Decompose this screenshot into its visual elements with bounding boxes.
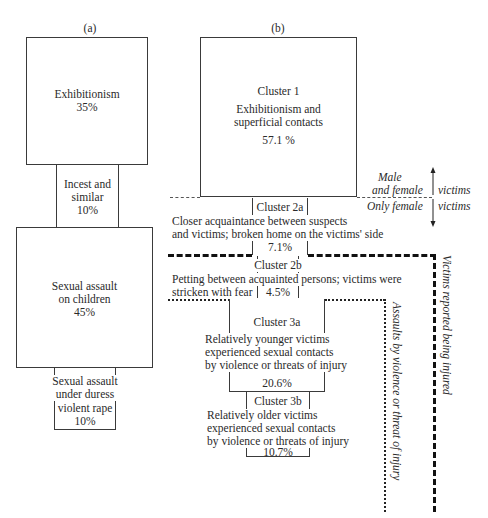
- victims-top-label: victims: [438, 184, 471, 197]
- violence-boundary-top-left: [168, 299, 230, 301]
- violence-label: Assaults by violence or threat of injury: [391, 302, 403, 480]
- cluster3a-name: Cluster 3a: [229, 316, 325, 329]
- sex-separator-left: [170, 197, 200, 198]
- cluster2a-desc-2: and victims; broken home on the victims'…: [172, 228, 383, 241]
- cluster1-desc-2: superficial contacts: [200, 116, 357, 129]
- sex-arrow: [427, 167, 439, 227]
- only-female-label: Only female: [367, 200, 423, 213]
- cluster3a-desc-1: Relatively younger victims: [205, 333, 330, 346]
- cluster2a-name: Cluster 2a: [252, 201, 308, 214]
- injured-label: Victims reported being injured: [441, 255, 453, 395]
- sex-separator-right: [357, 197, 432, 198]
- panel-b-label: (b): [258, 22, 298, 35]
- cluster3b-desc-2: experienced sexual contacts: [207, 422, 335, 435]
- cluster3a-desc-3: by violence or threats of injury: [205, 359, 347, 372]
- box-incest-percent: 10%: [56, 204, 119, 217]
- violence-boundary-right: [384, 299, 386, 512]
- and-female-label: and female: [372, 184, 423, 197]
- panel-a-label: (a): [70, 22, 110, 35]
- box-assault-children-line2: on children: [16, 293, 153, 306]
- cluster1-desc-1: Exhibitionism and: [200, 103, 357, 116]
- injured-boundary-top-right: [308, 254, 436, 257]
- cluster2b-desc-2: stricken with fear: [172, 286, 252, 299]
- injured-boundary-right: [433, 254, 436, 512]
- box-incest-line1: Incest and: [56, 178, 119, 191]
- box-incest-line2: similar: [56, 191, 119, 204]
- cluster3b-value: 10.7%: [246, 446, 310, 459]
- cluster2a-desc-1: Closer acquaintance between suspects: [172, 215, 347, 228]
- cluster3a-value: 20.6%: [229, 377, 325, 390]
- violence-boundary-top-right: [325, 299, 385, 301]
- box-assault-children-percent: 45%: [16, 306, 153, 319]
- cluster3b-desc-1: Relatively older victims: [207, 409, 318, 422]
- box-assault-children-line1: Sexual assault: [16, 280, 153, 293]
- victims-bottom-label: victims: [438, 200, 471, 213]
- cluster2b-value: 4.5%: [258, 286, 298, 299]
- cluster2a-value: 7.1%: [252, 241, 308, 254]
- cluster3b-name: Cluster 3b: [246, 395, 310, 408]
- box-violent-rape-percent: 10%: [56, 415, 114, 428]
- arrow-up-icon: [431, 167, 436, 195]
- cluster2b-desc-1: Petting between acquainted persons; vict…: [172, 273, 402, 286]
- box-violent-rape-line3: violent rape: [56, 402, 114, 415]
- cluster1-value: 57.1 %: [200, 134, 357, 147]
- box-violent-rape-line2: under duress: [35, 388, 135, 401]
- cluster2b-name: Cluster 2b: [230, 259, 326, 272]
- injured-boundary-top-left: [168, 254, 252, 257]
- cluster3a-desc-2: experienced sexual contacts: [205, 346, 333, 359]
- box-exhibitionism-label: Exhibitionism: [26, 88, 148, 101]
- box-exhibitionism-percent: 35%: [26, 101, 148, 114]
- cluster1-name: Cluster 1: [200, 85, 357, 98]
- arrow-down-icon: [431, 199, 436, 227]
- male-label: Male: [378, 171, 402, 184]
- box-violent-rape-line1: Sexual assault: [35, 375, 135, 388]
